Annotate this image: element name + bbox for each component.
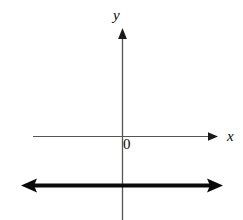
coordinate-plane-figure: y x 0 bbox=[0, 0, 243, 220]
x-axis-label: x bbox=[227, 129, 234, 144]
origin-label: 0 bbox=[123, 137, 131, 152]
x-axis-arrowhead-icon bbox=[208, 132, 218, 141]
y-axis-label: y bbox=[113, 8, 120, 23]
coordinate-plane-svg bbox=[0, 0, 243, 220]
y-axis-arrowhead-icon bbox=[118, 28, 127, 39]
